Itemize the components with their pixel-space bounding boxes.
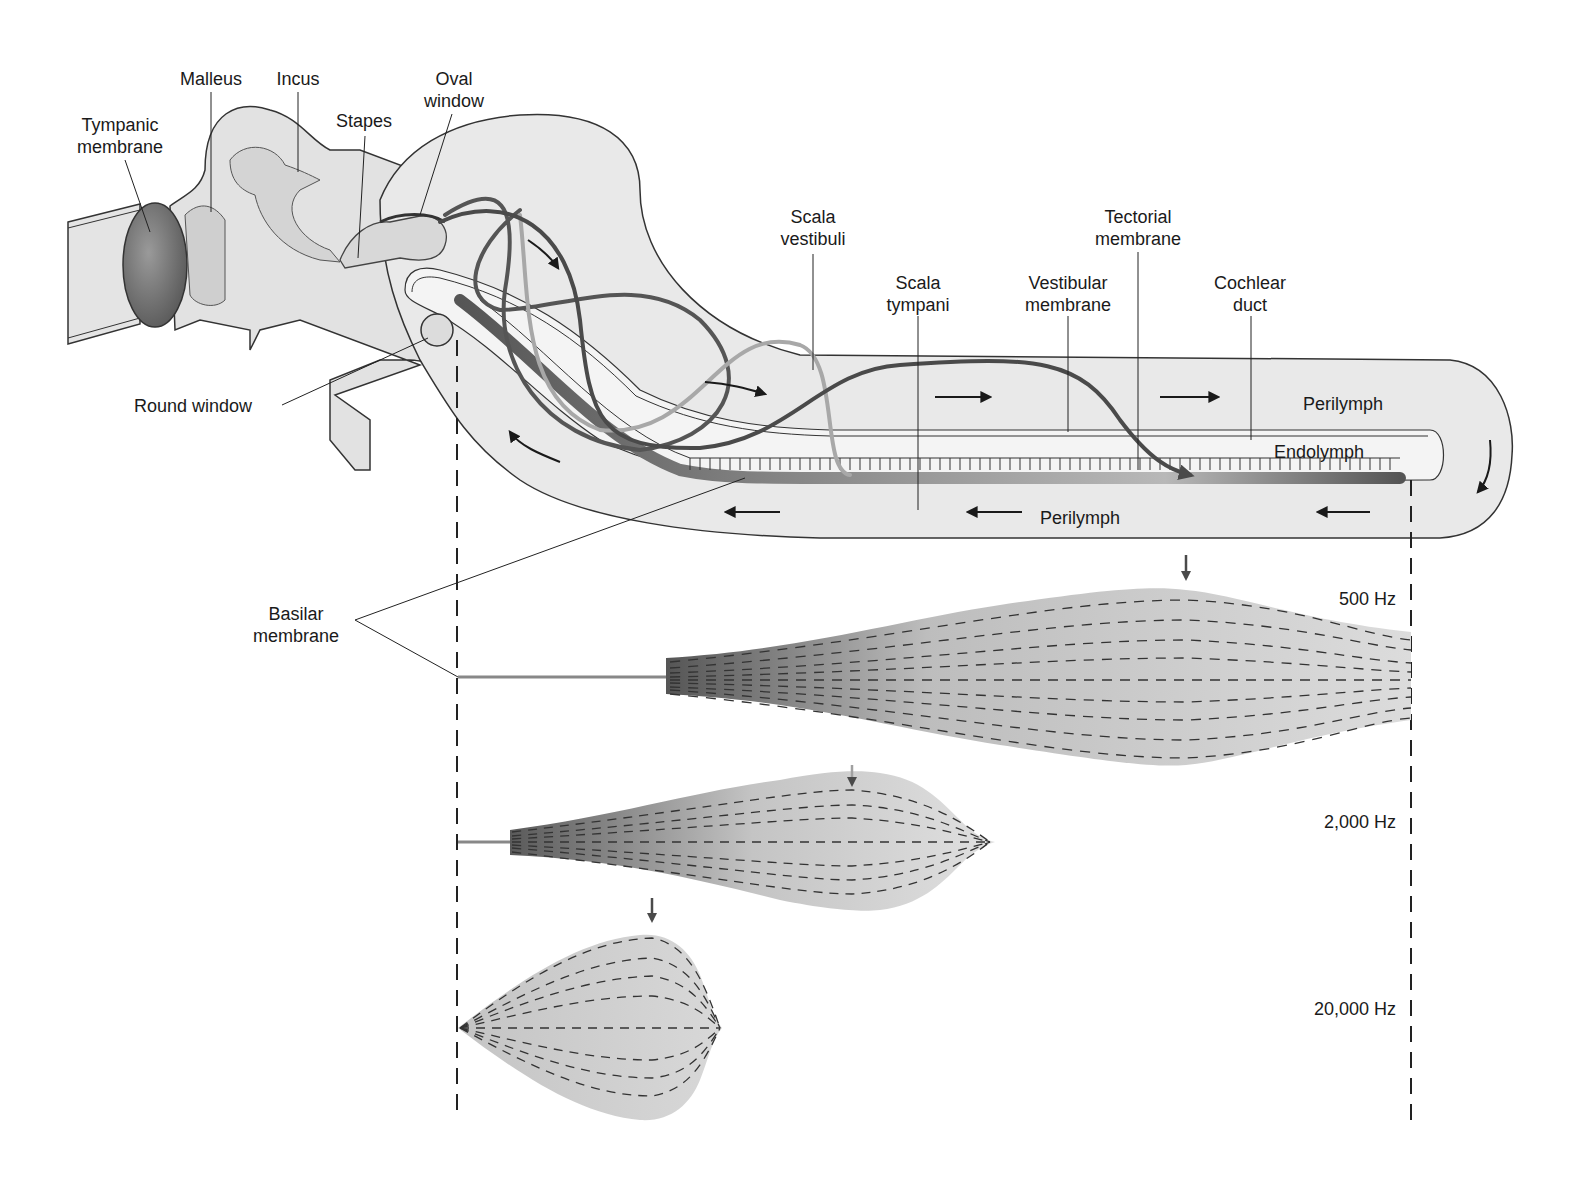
label-round-window: Round window bbox=[134, 395, 252, 417]
label-incus: Incus bbox=[268, 68, 328, 90]
label-perilymph-top: Perilymph bbox=[1303, 393, 1383, 415]
label-vestibular-membrane: Vestibular membrane bbox=[1013, 272, 1123, 316]
round-window-shape bbox=[421, 314, 453, 346]
label-stapes: Stapes bbox=[328, 110, 400, 132]
label-tympanic-membrane: Tympanic membrane bbox=[70, 114, 170, 158]
wave-500hz bbox=[458, 555, 1411, 766]
label-cochlear-duct: Cochlear duct bbox=[1200, 272, 1300, 316]
wave-20000hz bbox=[458, 898, 1411, 1120]
label-tectorial-membrane: Tectorial membrane bbox=[1080, 206, 1196, 250]
tympanic-membrane-shape bbox=[123, 203, 187, 327]
label-basilar-membrane: Basilar membrane bbox=[240, 603, 352, 647]
frequency-label-20000hz: 20,000 Hz bbox=[1280, 998, 1396, 1020]
label-malleus: Malleus bbox=[170, 68, 252, 90]
wave-2000hz bbox=[458, 765, 1411, 911]
label-scala-tympani: Scala tympani bbox=[873, 272, 963, 316]
label-scala-vestibuli: Scala vestibuli bbox=[768, 206, 858, 250]
label-oval-window: Oval window bbox=[418, 68, 490, 112]
label-perilymph-bottom: Perilymph bbox=[1040, 507, 1120, 529]
frequency-label-2000hz: 2,000 Hz bbox=[1290, 811, 1396, 833]
frequency-label-500hz: 500 Hz bbox=[1310, 588, 1396, 610]
label-endolymph: Endolymph bbox=[1274, 441, 1364, 463]
